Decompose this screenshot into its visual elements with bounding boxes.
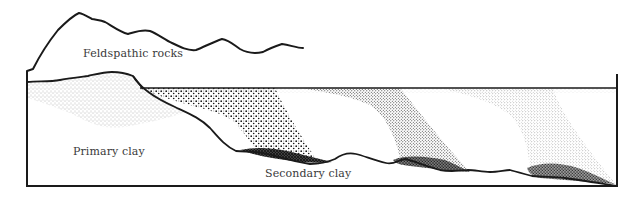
- secondary-clay-plume-1: [140, 88, 332, 165]
- diagram-canvas: Feldspathic rocks Primary clay Secondary…: [0, 0, 642, 197]
- label-primary-clay: Primary clay: [73, 145, 145, 158]
- label-secondary-clay: Secondary clay: [265, 167, 351, 180]
- label-feldspathic-rocks: Feldspathic rocks: [83, 47, 183, 60]
- water-surface-line: [140, 87, 617, 88]
- secondary-clay-plume-2: [300, 88, 470, 172]
- mountain-ridge-line: [27, 13, 303, 71]
